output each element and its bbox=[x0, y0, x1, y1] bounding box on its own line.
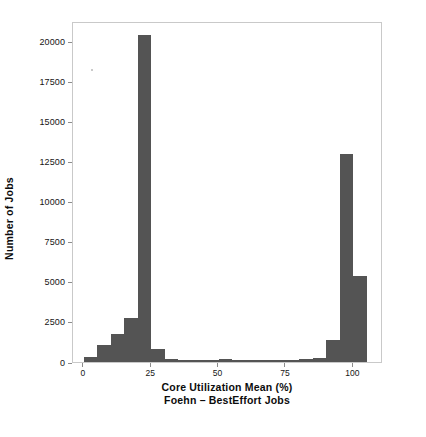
scan-speck bbox=[91, 69, 93, 71]
x-axis-tick-mark bbox=[352, 363, 353, 367]
x-axis-tick-label: 0 bbox=[80, 369, 85, 378]
x-axis-tick-label: 75 bbox=[280, 369, 289, 378]
y-axis-tick-label: 20000 bbox=[39, 38, 68, 47]
histogram-bar bbox=[138, 35, 151, 362]
histogram-bar bbox=[326, 340, 339, 362]
x-axis-tick-mark bbox=[284, 363, 285, 367]
x-axis-title-block: Core Utilization Mean (%) Foehn – BestEf… bbox=[72, 381, 382, 407]
histogram-bar bbox=[272, 360, 285, 362]
x-axis-tick-mark bbox=[150, 363, 151, 367]
histogram-figure: Number of Jobs 0250050007500100001250015… bbox=[0, 0, 426, 437]
histogram-bar bbox=[165, 359, 178, 362]
x-axis-tick-mark bbox=[82, 363, 83, 367]
y-axis-tick-label: 15000 bbox=[39, 118, 68, 127]
x-axis-title: Core Utilization Mean (%) bbox=[72, 381, 382, 394]
histogram-bar bbox=[124, 318, 137, 362]
y-axis-tick-label: 12500 bbox=[39, 158, 68, 167]
histogram-bar bbox=[97, 345, 110, 362]
x-axis-tick-label: 25 bbox=[145, 369, 154, 378]
histogram-bar bbox=[111, 334, 124, 362]
histogram-bar bbox=[313, 358, 326, 362]
histogram-bar bbox=[151, 349, 164, 362]
x-axis-tick-label: 100 bbox=[345, 369, 359, 378]
histogram-bar bbox=[178, 360, 191, 362]
histogram-bars bbox=[73, 23, 381, 362]
plot-area bbox=[72, 22, 382, 363]
histogram-bar bbox=[340, 154, 353, 362]
y-axis-tick-label: 17500 bbox=[39, 78, 68, 87]
histogram-bar bbox=[259, 360, 272, 362]
x-axis-tick-mark bbox=[217, 363, 218, 367]
histogram-bar bbox=[84, 357, 97, 362]
histogram-bar bbox=[299, 359, 312, 362]
x-axis-tick-label: 50 bbox=[213, 369, 222, 378]
x-axis-subtitle: Foehn – BestEffort Jobs bbox=[72, 394, 382, 407]
histogram-bar bbox=[353, 276, 366, 362]
y-axis-tick-label: 7500 bbox=[45, 238, 68, 247]
histogram-bar bbox=[219, 359, 232, 362]
histogram-bar bbox=[205, 360, 218, 362]
histogram-bar bbox=[286, 360, 299, 362]
y-axis-tick-label: 2500 bbox=[45, 318, 68, 327]
y-axis-tick-label: 5000 bbox=[45, 278, 68, 287]
y-axis-tick-label: 10000 bbox=[39, 198, 68, 207]
histogram-bar bbox=[232, 360, 245, 362]
histogram-bar bbox=[192, 360, 205, 362]
histogram-bar bbox=[246, 360, 259, 362]
